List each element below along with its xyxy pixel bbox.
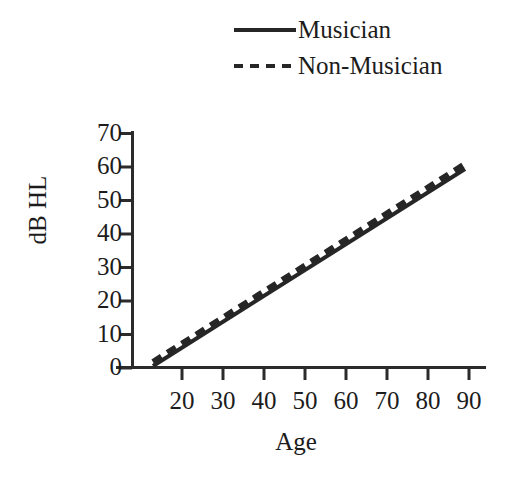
chart-figure: Musician Non-Musician (0, 0, 518, 486)
x-axis-title-wrap: Age (0, 428, 518, 456)
x-tick-label-90: 90 (439, 388, 499, 413)
y-axis-title: dB HL (24, 150, 52, 270)
x-axis-title: Age (201, 428, 317, 456)
x-tick-labels: 20 30 40 50 60 70 80 90 (0, 0, 518, 486)
plot-area: 70 60 50 40 30 20 10 0 20 30 40 50 60 70… (0, 0, 518, 486)
